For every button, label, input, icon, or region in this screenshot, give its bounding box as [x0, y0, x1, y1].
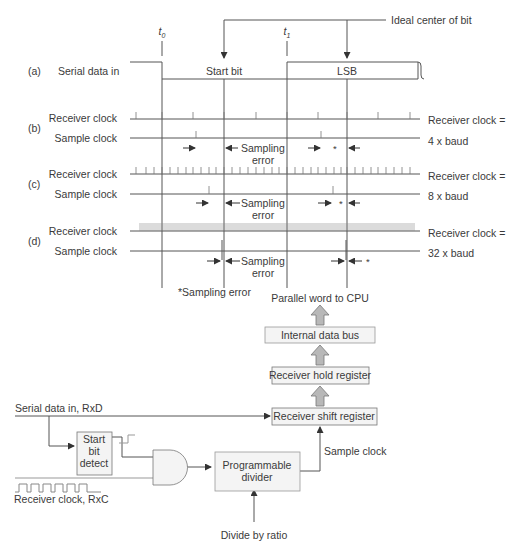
row-c-note2: 8 x baud	[428, 190, 468, 202]
sampling-label-c: Sampling	[241, 197, 285, 209]
row-b-note2: 4 x baud	[428, 135, 468, 147]
up-arrow-icon	[311, 345, 329, 365]
ideal-center-label: Ideal center of bit	[391, 14, 472, 26]
receiver-clock-label: Receiver clock, RxC	[14, 493, 109, 505]
start-bit-label: Start bit	[206, 65, 242, 77]
row-a-tag: (a)	[28, 65, 41, 77]
row-d-rx-label: Receiver clock	[49, 225, 118, 237]
receiver-clock-4x-ticks	[136, 112, 410, 138]
hold-register-label: Receiver hold register	[269, 369, 372, 381]
row-d-sample-label: Sample clock	[55, 245, 118, 257]
t1-label: t1	[284, 25, 291, 39]
t0-label: t0	[159, 25, 166, 39]
row-d-note1: Receiver clock =	[428, 227, 505, 239]
internal-bus-label: Internal data bus	[281, 329, 359, 341]
and-gate-icon	[153, 450, 188, 485]
error-label-d: error	[252, 267, 275, 279]
error-label-c: error	[252, 209, 275, 221]
divider-label-1: Programmable	[223, 459, 292, 471]
uart-receiver-diagram: t0 t1 Ideal center of bit (a) Serial dat…	[0, 0, 522, 556]
start-label-2: bit	[88, 445, 99, 457]
row-b-tag: (b)	[28, 122, 41, 134]
sampling-label-b: Sampling	[241, 142, 285, 154]
timing-diagram	[130, 20, 424, 288]
sampling-label-d: Sampling	[241, 255, 285, 267]
start-label-3: detect	[80, 457, 109, 469]
divider-label-2: divider	[242, 471, 273, 483]
lsb-label: LSB	[337, 65, 357, 77]
asterisk-b: *	[333, 143, 337, 154]
row-d-note2: 32 x baud	[428, 247, 474, 259]
serial-in-label: Serial data in, RxD	[15, 402, 103, 414]
divide-ratio-label: Divide by ratio	[221, 529, 288, 541]
sample-clock-label: Sample clock	[324, 445, 387, 457]
shift-register-label: Receiver shift register	[273, 410, 375, 422]
row-b-sample-label: Sample clock	[55, 132, 118, 144]
asterisk-d: *	[366, 256, 370, 267]
row-d-tag: (d)	[28, 235, 41, 247]
up-arrow-icon	[311, 305, 329, 325]
row-c-tag: (c)	[28, 178, 40, 190]
row-b-note1: Receiver clock =	[428, 114, 505, 126]
error-label-b: error	[252, 154, 275, 166]
row-c-note1: Receiver clock =	[428, 170, 505, 182]
parallel-word-label: Parallel word to CPU	[271, 292, 368, 304]
row-c-rx-label: Receiver clock	[49, 168, 118, 180]
asterisk-c: *	[339, 198, 343, 209]
serial-data-label: Serial data in	[58, 65, 119, 77]
receiver-clock-8x-ticks	[136, 167, 410, 194]
start-label-1: Start	[83, 433, 105, 445]
row-c-sample-label: Sample clock	[55, 188, 118, 200]
row-b-rx-label: Receiver clock	[49, 112, 118, 124]
footnote: *Sampling error	[178, 286, 251, 298]
